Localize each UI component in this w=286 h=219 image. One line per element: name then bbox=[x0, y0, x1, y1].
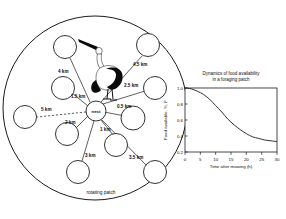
xtick-label-15: 15 bbox=[229, 157, 234, 162]
patch-circle-5km[interactable] bbox=[14, 106, 37, 129]
chart-y-axis-title: Food available, %, F bbox=[163, 100, 168, 140]
distance-label-1-5km: 1.5 km bbox=[71, 94, 85, 99]
stork-head-shape bbox=[96, 47, 102, 54]
connector-5km-dashed bbox=[37, 112, 86, 117]
distance-label-3-5km: 3.5 km bbox=[129, 155, 143, 160]
patch-circle-4-5km[interactable] bbox=[137, 34, 160, 57]
xtick-label-5: 5 bbox=[199, 157, 202, 162]
figure-svg: nest 0.5 km 1 km 1.5 km 2 km 2.5 km 3 km… bbox=[0, 0, 286, 219]
xtick-label-0: 0 bbox=[184, 157, 187, 162]
nest-label: nest bbox=[91, 109, 101, 114]
stork-beak-shape bbox=[78, 39, 98, 50]
patch-circle-3km[interactable] bbox=[67, 161, 90, 184]
ytick-label-0-8: 0.8 bbox=[177, 102, 184, 107]
stork-leg-right bbox=[112, 89, 113, 99]
rotating-patch-diagram: nest 0.5 km 1 km 1.5 km 2 km 2.5 km 3 km… bbox=[3, 16, 187, 200]
distance-label-3km: 3 km bbox=[85, 153, 95, 158]
chart-plot-frame bbox=[185, 88, 277, 152]
distance-label-2km: 2 km bbox=[65, 120, 75, 125]
distance-label-4km: 4 km bbox=[58, 69, 68, 74]
patch-circle-1km[interactable] bbox=[105, 134, 128, 157]
chart-x-axis-title: Time after mowing (h) bbox=[210, 164, 253, 169]
ytick-label-1-0: 1.0 bbox=[177, 86, 184, 91]
patch-circle-3-5km[interactable] bbox=[144, 161, 167, 184]
patch-circle-4km[interactable] bbox=[54, 36, 77, 59]
stork-leg-left bbox=[107, 89, 108, 99]
xtick-label-10: 10 bbox=[213, 157, 218, 162]
figure-container: nest 0.5 km 1 km 1.5 km 2 km 2.5 km 3 km… bbox=[0, 0, 286, 219]
distance-label-4-5km: 4.5 km bbox=[133, 62, 147, 67]
chart-x-axis: 0 5 10 15 20 25 30 bbox=[184, 152, 280, 162]
chart-title-line2: in a foraging patch bbox=[212, 77, 250, 82]
chart-title-line1: Dynamics of food availability bbox=[203, 71, 261, 76]
xtick-label-30: 30 bbox=[275, 157, 280, 162]
distance-label-0-5km: 0.5 km bbox=[117, 104, 131, 109]
food-availability-chart: Dynamics of food availability in a forag… bbox=[163, 71, 280, 169]
connector-2km bbox=[76, 116, 88, 128]
patch-circle-0-5km[interactable] bbox=[121, 106, 145, 130]
patch-circle-2-5km[interactable] bbox=[144, 77, 167, 100]
distance-label-2-5km: 2.5 km bbox=[124, 83, 138, 88]
ytick-label-0-4: 0.4 bbox=[177, 134, 184, 139]
ytick-label-0-2: 0.2 bbox=[177, 150, 184, 155]
distance-label-1km: 1 km bbox=[100, 127, 110, 132]
xtick-label-20: 20 bbox=[244, 157, 249, 162]
xtick-label-25: 25 bbox=[259, 157, 264, 162]
patch-circle-2km[interactable] bbox=[56, 123, 79, 146]
ytick-label-0-6: 0.6 bbox=[177, 118, 184, 123]
rotating-patch-caption: rotating patch bbox=[86, 190, 115, 195]
distance-label-5km: 5 km bbox=[41, 107, 51, 112]
